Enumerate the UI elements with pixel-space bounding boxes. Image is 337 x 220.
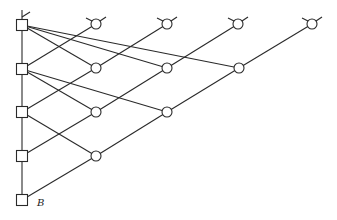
lattice-diagram: B xyxy=(0,0,337,220)
edge xyxy=(96,112,167,156)
circle-node xyxy=(234,63,244,73)
stub-line xyxy=(242,17,248,21)
edge xyxy=(167,24,238,68)
edge xyxy=(96,68,167,112)
circle-node xyxy=(91,151,101,161)
edge xyxy=(96,24,167,68)
square-node xyxy=(17,107,28,118)
square-node xyxy=(17,151,28,162)
edge xyxy=(22,25,167,68)
edge xyxy=(22,156,96,200)
edge xyxy=(22,25,239,68)
edge xyxy=(239,24,312,68)
node-label-b: B xyxy=(36,197,44,208)
stub-line xyxy=(228,18,234,21)
square-node xyxy=(17,64,28,75)
terminal-stubs xyxy=(22,10,322,21)
stub-line xyxy=(22,12,30,17)
circle-node xyxy=(233,19,243,29)
circle-node xyxy=(162,107,172,117)
circle-node xyxy=(162,63,172,73)
stub-line xyxy=(171,17,177,21)
stub-line xyxy=(86,18,92,21)
circle-node xyxy=(91,107,101,117)
circle-node xyxy=(91,63,101,73)
stub-line xyxy=(302,18,308,21)
stub-line xyxy=(100,17,106,21)
edge xyxy=(22,69,167,112)
stub-line xyxy=(157,18,163,21)
circle-node xyxy=(91,19,101,29)
stub-line xyxy=(316,17,322,21)
circle-node xyxy=(307,19,317,29)
nodes xyxy=(17,19,318,206)
circle-node xyxy=(162,19,172,29)
edge xyxy=(167,68,239,112)
square-node xyxy=(17,20,28,31)
edge xyxy=(22,25,96,68)
square-node xyxy=(17,195,28,206)
